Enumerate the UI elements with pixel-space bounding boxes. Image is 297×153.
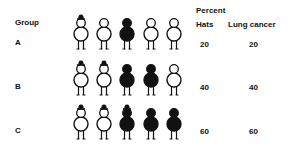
person-figure: [71, 13, 91, 51]
person-figure: [94, 103, 114, 141]
person-figure: [71, 103, 91, 141]
person-figure-cancer: [117, 103, 137, 141]
group-label: A: [15, 38, 21, 47]
group-header: Group: [15, 18, 39, 27]
person-figure: [141, 13, 161, 51]
hat-icon: [77, 61, 85, 66]
person-figure: [94, 13, 114, 51]
person-figure: [164, 59, 184, 97]
hats-percent-value: 60: [200, 127, 209, 136]
lung-cancer-percent-value: 20: [249, 40, 258, 49]
lung-cancer-percent-value: 60: [249, 127, 258, 136]
person-figure-cancer: [141, 103, 161, 141]
hat-icon: [100, 105, 108, 110]
person-figure-cancer: [141, 59, 161, 97]
percent-header: Percent: [196, 6, 225, 15]
hats-percent-value: 20: [200, 40, 209, 49]
hat-icon: [77, 15, 85, 20]
person-figure-cancer: [164, 103, 184, 141]
hat-icon: [123, 105, 131, 110]
hats-header: Hats: [196, 20, 213, 29]
lung-cancer-header: Lung cancer: [228, 20, 276, 29]
person-figure-cancer: [117, 59, 137, 97]
hats-percent-value: 40: [200, 83, 209, 92]
hat-icon: [100, 61, 108, 66]
group-label: B: [15, 82, 21, 91]
hat-icon: [77, 105, 85, 110]
group-label: C: [15, 126, 21, 135]
person-figure-cancer: [117, 13, 137, 51]
person-figure: [94, 59, 114, 97]
person-figure: [71, 59, 91, 97]
lung-cancer-percent-value: 40: [249, 83, 258, 92]
person-figure: [164, 13, 184, 51]
